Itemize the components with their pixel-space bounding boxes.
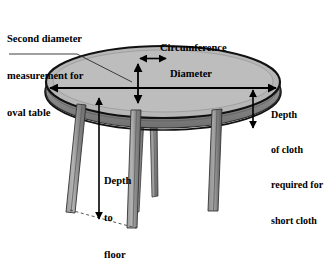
label-depth-of-cloth-line2: of cloth	[271, 144, 323, 156]
label-depth-to-floor: Depth to floor	[104, 150, 131, 262]
label-depth-of-cloth-line4: short cloth	[271, 215, 323, 227]
label-depth-of-cloth: Depth of cloth required for short cloth	[271, 85, 323, 250]
label-second-diameter-line3: oval table	[7, 107, 84, 119]
label-depth-to-floor-line2: to	[104, 212, 131, 224]
label-depth-to-floor-line1: Depth	[104, 175, 131, 187]
label-depth-of-cloth-line1: Depth	[271, 109, 323, 121]
label-second-diameter-line2: measurement for	[7, 70, 84, 82]
label-depth-of-cloth-line3: required for	[271, 179, 323, 191]
label-diameter: Diameter	[170, 68, 212, 80]
label-second-diameter: Second diameter measurement for oval tab…	[7, 8, 84, 144]
label-second-diameter-line1: Second diameter	[7, 33, 84, 45]
label-depth-to-floor-line3: floor	[104, 249, 131, 261]
label-circumference: Circumference	[160, 42, 227, 54]
